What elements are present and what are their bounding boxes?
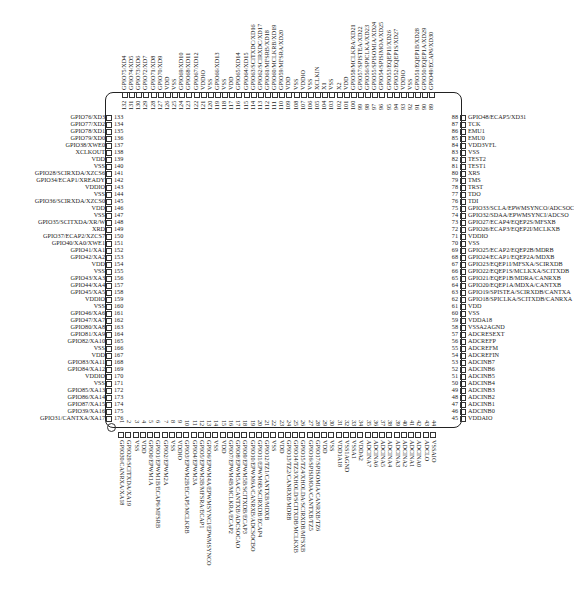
pin-label: 41ADCINA1 — [408, 420, 415, 467]
pin-label: 25GPIO14/TZ3/XHOLD/SCITXDB/MCLKXB — [292, 420, 299, 553]
pin-label: 8VSS — [169, 420, 176, 451]
pin-label: 20GPIO11/EPWM6B/SCIRXDB/ECAP4 — [256, 420, 263, 537]
pin-label: 6GPIO1/EPWM1B/ECAP6/MFSRB — [155, 420, 162, 528]
pin-label: 40ADCINA2 — [401, 420, 408, 467]
pin-label: 17GPIO8/EPWM5A/CANTXB/ADCSOCAO — [234, 420, 241, 548]
pin-label: 32VSS1AGND — [343, 420, 350, 472]
pin-label: 43ADCLO — [423, 420, 430, 461]
pin-label: 24GPIO13/TZ2/CANRXB/MDRB — [285, 420, 292, 520]
pin-label: 13GPIO6/EPWM4A/EPWMSYNCI/EPWMSYNCO — [205, 420, 212, 565]
pin-label: 10GPIO3/EPWM2B/ECAP5/MCLKRB — [184, 420, 191, 534]
pin-label: 72GPIO26/ECAP3/EQEP2I/MCLKXB — [448, 226, 560, 233]
pin-label: 103VSS — [328, 79, 335, 110]
pin-label: 42ADCINA0 — [416, 420, 423, 467]
pin-label: 14VSS — [213, 420, 220, 451]
pin-label: 30VSS — [329, 420, 336, 451]
pin-label: 62GPIO18/SPICLKA/SCITXDB/CANRXA — [448, 296, 572, 303]
pin-label: 15VDD — [220, 420, 227, 453]
pin-label: 88GPIO48/ECAP5/XD31 — [448, 114, 526, 121]
pin-label: 11GPIO4/EPWM3A — [191, 420, 198, 485]
pin-label: 110GPIO59/MFSRA/XD20 — [278, 30, 285, 110]
pin-label: 3VSS — [133, 420, 140, 451]
pin-label: 39ADCINA3 — [394, 420, 401, 467]
pin-label: 29VDD — [321, 420, 328, 453]
pin-label: 36ADCINA6 — [372, 420, 379, 467]
pin-label: 19GPIO10/EPWM6A/CANRXB/ADCSOCBO — [249, 420, 256, 551]
pin-label: 38ADCINA4 — [387, 420, 394, 467]
pin-label: 18GPIO9/EPWM5B/SCITXDB/ECAP3 — [242, 420, 249, 534]
pin-label: 21GPIO12/TZ1/CANTXB/MDXB — [263, 420, 270, 520]
pin-label: 89GPIO49/ECAP6/XD30 — [428, 32, 435, 110]
pin-label: GPIO82/XA10 165 — [68, 338, 112, 345]
pin-label: 4VDD — [140, 420, 147, 453]
pin-label: 23VDD — [278, 420, 285, 453]
pin-label: 28GPIO17/SPISOMIA/CANRXB/TZ6 — [314, 420, 321, 531]
pin-label: 45VDDAIO — [448, 415, 492, 422]
pin-label: 31VDD1A18 — [336, 420, 343, 467]
pin-label: 12GPIO5/EPWM3B/MFSRA/ECAP1 — [198, 420, 205, 528]
pin-label: 27GPIO16/SPISIMOA/CANTXB/TZ5 — [307, 420, 314, 531]
pin-label: 35ADCINA7 — [365, 420, 372, 467]
pin-label: 7GPIO2/EPWM2A — [162, 420, 169, 485]
pin-label: GPIO31/CANTXA/XA17 176 — [40, 415, 112, 422]
pin-label: 16GPIO7/EPWM4B/MCLKRA/ECAP2 — [227, 420, 234, 534]
pin-label: 1GPIO30/CANRXA/XA18 — [118, 420, 125, 505]
pin-label: 44VSSAIO — [430, 420, 437, 462]
pin-label: 37ADCINA5 — [379, 420, 386, 467]
pin1-marker — [107, 423, 116, 432]
pin-label: 9VDDIO — [176, 420, 183, 460]
pin-label: 26GPIO15/TZ4/XHOLDA/SCIRXDB/MFSXB — [300, 420, 307, 552]
pin-label: 96GPIO54/SPISIMOA/XD25 — [378, 22, 385, 110]
pin-label: 2GPIO29/SCITXDA/XA19 — [126, 420, 133, 506]
pin-label: 22VSS — [271, 420, 278, 451]
pin-label: 33VSSA1 — [350, 420, 357, 459]
pin-label: 34VDDA2 — [358, 420, 365, 461]
pin-label: 5GPIO0/EPWM1A — [147, 420, 154, 485]
pin-label: 116GPIO65/XD14 — [235, 53, 242, 110]
pin-label: 123GPIO68/XD11 — [185, 53, 192, 110]
chip-package-outline — [105, 92, 462, 428]
